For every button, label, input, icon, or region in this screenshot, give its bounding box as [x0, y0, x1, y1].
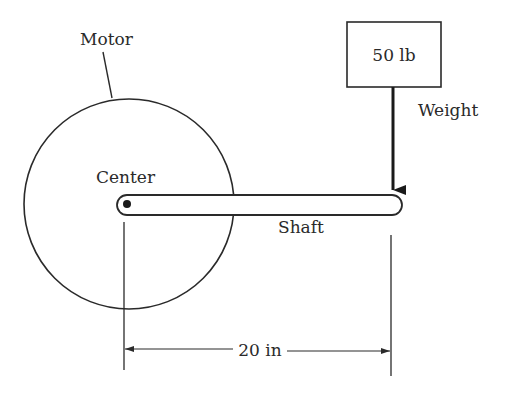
weight-value-label: 50 lb — [372, 45, 415, 65]
motor-label: Motor — [80, 29, 134, 49]
center-label: Center — [96, 167, 156, 187]
motor-leader-line — [103, 52, 112, 98]
shaft-label: Shaft — [278, 217, 324, 237]
weight-label: Weight — [418, 100, 478, 120]
center-pivot-dot — [123, 200, 131, 208]
shaft — [117, 195, 402, 215]
torque-diagram: Motor Center Shaft 50 lb Weight 20 in — [0, 0, 505, 394]
distance-label: 20 in — [238, 340, 281, 360]
